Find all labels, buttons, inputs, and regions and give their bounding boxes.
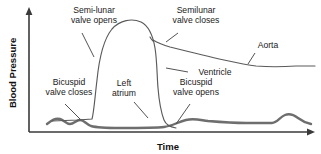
callout-semilunar-closes-line2: valve closes [173, 15, 220, 25]
leader-bicuspid-closes [65, 104, 80, 119]
y-axis-arrowhead [26, 7, 33, 15]
callout-semilunar-opens-line2: valve opens [71, 15, 117, 25]
callout-left-atrium-line2: atrium [112, 88, 136, 98]
leader-ventricle [166, 68, 188, 72]
y-axis-title: Blood Pressure [7, 38, 18, 108]
callout-bicuspid-closes-line1: Bicuspid [53, 77, 86, 87]
leader-left-atrium [134, 102, 148, 118]
callout-bicuspid-closes-line2: valve closes [46, 87, 93, 97]
callout-semilunar-valve-opens: Semi-lunar valve opens [71, 5, 117, 25]
callout-aorta: Aorta [258, 40, 279, 50]
callout-left-atrium: Left atrium [112, 78, 136, 98]
x-axis-arrowhead [307, 129, 315, 136]
aorta-curve [153, 40, 315, 67]
leader-semilunar-opens [82, 33, 94, 57]
callout-semilunar-closes-line1: Semilunar [177, 5, 216, 15]
x-axis-title: Time [157, 141, 179, 152]
callout-bicuspid-opens-line1: Bicuspid [180, 77, 213, 87]
callout-left-atrium-line1: Left [117, 78, 132, 88]
callout-ventricle: Ventricle [199, 67, 232, 77]
callout-semilunar-opens-line1: Semi-lunar [73, 5, 115, 15]
axes-group [26, 7, 315, 135]
callout-semilunar-valve-closes: Semilunar valve closes [173, 5, 220, 25]
left-atrium-curve [47, 114, 311, 128]
ventricle-curve [52, 20, 176, 128]
blood-pressure-cardiac-cycle-figure: Blood Pressure Time Semi-lunar valve ope… [0, 0, 321, 154]
callout-bicuspid-valve-opens: Bicuspid valve opens [173, 77, 219, 97]
callout-bicuspid-valve-closes: Bicuspid valve closes [46, 77, 93, 97]
callout-bicuspid-opens-line2: valve opens [173, 87, 219, 97]
chart-canvas: Blood Pressure Time Semi-lunar valve ope… [0, 0, 321, 154]
leader-aorta [248, 53, 255, 64]
curves-group [47, 20, 315, 128]
leader-semilunar-closes [166, 33, 178, 42]
